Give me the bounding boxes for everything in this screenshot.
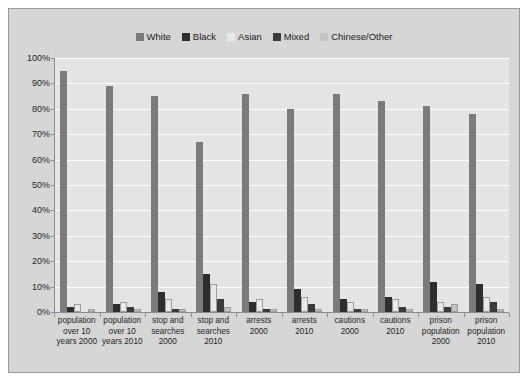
- bar: [437, 302, 444, 312]
- bar: [88, 309, 95, 312]
- x-axis-category-label: stop and searches 2010: [191, 316, 237, 348]
- plot-outer: 100%90%80%70%60%50%40%30%20%10%0%: [54, 58, 509, 313]
- bar-group: [237, 58, 282, 312]
- legend-swatch-icon: [182, 33, 190, 41]
- bar: [134, 309, 141, 312]
- bar: [476, 284, 483, 312]
- bar: [340, 299, 347, 312]
- x-axis-category-label: population over 10 years 2010: [100, 316, 146, 348]
- bar: [203, 274, 210, 312]
- x-axis-category-label: arrests 2000: [236, 316, 282, 348]
- y-axis-tick-label: 50%: [32, 180, 50, 190]
- bar: [249, 302, 256, 312]
- bar: [469, 114, 476, 312]
- y-axis-tick-label: 40%: [32, 205, 50, 215]
- x-axis-category-label: stop and searches 2000: [145, 316, 191, 348]
- bar: [263, 309, 270, 312]
- bar-group: [327, 58, 372, 312]
- legend-swatch-icon: [320, 33, 328, 41]
- x-axis-labels: population over 10 years 2000population …: [54, 316, 509, 348]
- y-axis-tick-label: 60%: [32, 155, 50, 165]
- legend-label: Mixed: [284, 31, 309, 42]
- bar: [430, 282, 437, 312]
- bar: [120, 302, 127, 312]
- bar: [333, 94, 340, 312]
- legend-label: Black: [193, 31, 216, 42]
- bar: [392, 299, 399, 312]
- x-axis-category-label: cautions 2000: [327, 316, 373, 348]
- legend-item: Mixed: [273, 31, 309, 42]
- legend-label: White: [147, 31, 171, 42]
- bar: [127, 307, 134, 312]
- legend-item: Black: [182, 31, 216, 42]
- y-axis-tick-label: 0%: [37, 307, 50, 317]
- y-axis-tick-label: 80%: [32, 104, 50, 114]
- chart-container: WhiteBlackAsianMixedChinese/Other 100%90…: [8, 8, 520, 373]
- bar: [301, 297, 308, 312]
- bar: [315, 309, 322, 312]
- bars-layer: [55, 58, 509, 312]
- bar: [399, 307, 406, 312]
- bar-group: [282, 58, 327, 312]
- bar: [172, 309, 179, 312]
- x-axis-category-label: cautions 2010: [373, 316, 419, 348]
- legend-swatch-icon: [227, 33, 235, 41]
- bar: [287, 109, 294, 312]
- bar: [497, 309, 504, 312]
- legend-item: Asian: [227, 31, 262, 42]
- bar: [196, 142, 203, 312]
- legend-label: Asian: [238, 31, 262, 42]
- bar: [217, 299, 224, 312]
- legend-swatch-icon: [273, 33, 281, 41]
- legend-label: Chinese/Other: [331, 31, 392, 42]
- bar: [385, 297, 392, 312]
- x-axis-category-label: arrests 2010: [282, 316, 328, 348]
- bar: [60, 71, 67, 312]
- bar: [224, 307, 231, 312]
- bar: [490, 302, 497, 312]
- bar: [270, 309, 277, 312]
- bar: [256, 299, 263, 312]
- bar: [406, 309, 413, 312]
- bar: [444, 307, 451, 312]
- bar: [67, 307, 74, 312]
- bar: [113, 304, 120, 312]
- bar: [483, 297, 490, 312]
- plot-area: 100%90%80%70%60%50%40%30%20%10%0%: [54, 58, 509, 313]
- bar: [451, 304, 458, 312]
- bar: [294, 289, 301, 312]
- bar-group: [100, 58, 145, 312]
- legend-item: White: [136, 31, 171, 42]
- bar: [106, 86, 113, 312]
- x-axis-category-label: prison population 2000: [418, 316, 464, 348]
- bar: [308, 304, 315, 312]
- bar-group: [373, 58, 418, 312]
- x-axis-category-label: population over 10 years 2000: [54, 316, 100, 348]
- bar: [347, 302, 354, 312]
- y-axis-tick-label: 70%: [32, 129, 50, 139]
- bar: [242, 94, 249, 312]
- bar: [179, 309, 186, 312]
- y-axis-tick-label: 100%: [27, 53, 50, 63]
- bar-group: [418, 58, 463, 312]
- bar: [158, 292, 165, 312]
- bar: [151, 96, 158, 312]
- bar-group: [55, 58, 100, 312]
- bar: [165, 299, 172, 312]
- bar: [354, 309, 361, 312]
- bar-group: [464, 58, 509, 312]
- y-axis-tick-label: 10%: [32, 282, 50, 292]
- y-axis-tick-label: 90%: [32, 78, 50, 88]
- x-axis-category-label: prison population 2010: [464, 316, 510, 348]
- bar: [378, 101, 385, 312]
- y-axis-tick-label: 30%: [32, 231, 50, 241]
- legend-swatch-icon: [136, 33, 144, 41]
- y-axis-tick-label: 20%: [32, 256, 50, 266]
- bar-group: [146, 58, 191, 312]
- bar: [74, 304, 81, 312]
- bar: [210, 284, 217, 312]
- bar: [361, 309, 368, 312]
- bar-group: [191, 58, 236, 312]
- legend-item: Chinese/Other: [320, 31, 392, 42]
- bar: [423, 106, 430, 312]
